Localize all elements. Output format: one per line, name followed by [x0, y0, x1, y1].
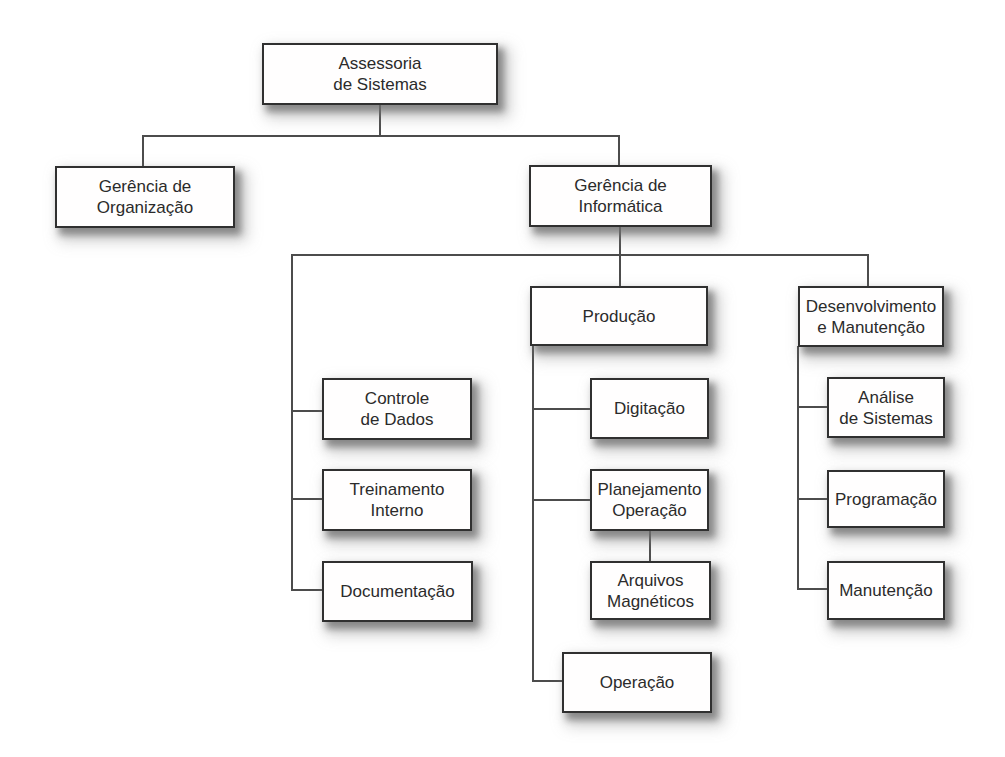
connector-stub-analise-sistemas: [797, 406, 827, 408]
node-operacao: Operação: [562, 652, 712, 713]
node-label-line: Interno: [371, 500, 424, 521]
node-digitacao: Digitação: [590, 378, 709, 439]
connector-stub-documentacao: [291, 589, 322, 591]
node-controle-de-dados: Controle de Dados: [322, 378, 472, 440]
node-label-line: Operação: [612, 500, 687, 521]
connector-drop-producao: [619, 254, 621, 286]
connector-drop-gerencia-organizacao: [142, 135, 144, 166]
connector-planejamento-to-arquivos: [649, 531, 651, 561]
node-label-line: Magnéticos: [607, 591, 694, 612]
node-label-line: de Sistemas: [333, 74, 427, 95]
node-label-line: Documentação: [340, 581, 454, 602]
node-label-line: Arquivos: [617, 570, 683, 591]
connector-stub-treinamento-interno: [291, 498, 322, 500]
node-label-line: Controle: [365, 388, 429, 409]
node-label-line: Planejamento: [598, 479, 702, 500]
node-label-line: de Sistemas: [839, 408, 933, 429]
node-label-line: Organização: [97, 197, 193, 218]
node-label-line: Análise: [858, 387, 914, 408]
connector-stub-planejamento-operacao: [532, 499, 590, 501]
node-label-line: Gerência de: [574, 175, 667, 196]
connector-informatica-drop: [619, 227, 621, 256]
connector-stub-controle-dados: [291, 410, 322, 412]
node-label-line: Gerência de: [99, 176, 192, 197]
connector-left-spine: [291, 254, 293, 591]
node-label-line: Programação: [835, 489, 937, 510]
node-arquivos-magneticos: Arquivos Magnéticos: [590, 561, 711, 620]
node-producao: Produção: [530, 286, 708, 346]
node-planejamento-operacao: Planejamento Operação: [590, 469, 709, 531]
node-label-line: Digitação: [614, 398, 685, 419]
node-gerencia-de-organizacao: Gerência de Organização: [55, 166, 235, 228]
connector-stub-operacao: [532, 680, 562, 682]
connector-level2-horizontal: [291, 254, 869, 256]
connector-producao-spine: [532, 346, 534, 682]
connector-stub-digitacao: [532, 408, 590, 410]
node-desenvolvimento-e-manutencao: Desenvolvimento e Manutenção: [798, 286, 944, 347]
node-programacao: Programação: [827, 470, 945, 528]
node-label-line: Assessoria: [338, 53, 421, 74]
node-analise-de-sistemas: Análise de Sistemas: [827, 377, 945, 438]
node-label-line: Manutenção: [839, 580, 933, 601]
connector-stub-manutencao: [797, 588, 827, 590]
node-manutencao: Manutenção: [827, 561, 945, 620]
node-label-line: e Manutenção: [817, 317, 925, 338]
org-chart: Assessoria de Sistemas Gerência de Organ…: [0, 0, 1005, 757]
connector-level1-horizontal: [142, 135, 620, 137]
node-label-line: Treinamento: [350, 479, 445, 500]
node-documentacao: Documentação: [322, 561, 473, 622]
connector-desenvolvimento-spine: [797, 346, 799, 590]
node-assessoria-de-sistemas: Assessoria de Sistemas: [262, 43, 498, 105]
connector-assessoria-drop: [379, 105, 381, 136]
node-label-line: Operação: [600, 672, 675, 693]
node-label-line: Desenvolvimento: [806, 296, 936, 317]
node-label-line: Informática: [578, 196, 662, 217]
connector-drop-desenvolvimento: [867, 254, 869, 286]
node-treinamento-interno: Treinamento Interno: [322, 469, 472, 531]
connector-drop-gerencia-informatica: [618, 135, 620, 165]
connector-stub-programacao: [797, 498, 827, 500]
node-label-line: de Dados: [361, 409, 434, 430]
node-label-line: Produção: [583, 306, 656, 327]
node-gerencia-de-informatica: Gerência de Informática: [529, 165, 712, 227]
